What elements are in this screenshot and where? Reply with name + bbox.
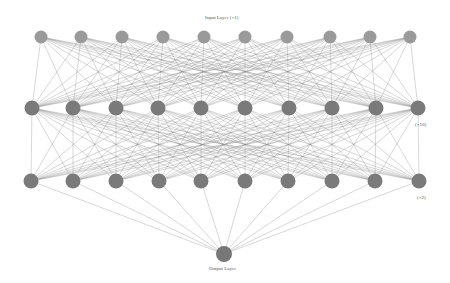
hidden1-node (325, 101, 340, 116)
hidden2-node (109, 174, 124, 189)
connection-edge (159, 181, 224, 254)
hidden2-node (24, 174, 39, 189)
hidden-layer-1-count-label: (×10) (415, 122, 426, 127)
hidden1-node (238, 101, 253, 116)
connection-edge (73, 181, 224, 254)
hidden1-node (25, 101, 40, 116)
hidden1-node (411, 101, 426, 116)
input-layer-label: Input Layer (×1) (205, 15, 238, 20)
input-node (239, 31, 252, 44)
connection-edge (245, 37, 287, 108)
connection-edge (204, 37, 245, 108)
connection-edge (418, 108, 419, 181)
input-node (364, 31, 377, 44)
hidden2-node (194, 174, 209, 189)
connection-edge (204, 37, 289, 108)
hidden-layer-2-count-label: (×2) (417, 195, 426, 200)
connection-edge (73, 37, 410, 108)
connection-edge (410, 37, 418, 108)
connection-edge (376, 108, 419, 181)
hidden1-node (369, 101, 384, 116)
connection-edge (289, 37, 330, 108)
connection-edge (201, 37, 410, 108)
connection-edges (31, 37, 419, 254)
output-node (216, 246, 232, 262)
input-node (116, 31, 129, 44)
connection-edge (31, 108, 32, 181)
connection-edge (32, 108, 159, 181)
connection-edge (201, 181, 224, 254)
hidden1-node (151, 101, 166, 116)
connection-edge (224, 181, 332, 254)
connection-edge (158, 37, 410, 108)
connection-edge (81, 37, 332, 108)
neural-network-diagram (0, 0, 450, 283)
connection-edge (289, 37, 370, 108)
connection-edge (224, 181, 419, 254)
hidden2-node (281, 174, 296, 189)
hidden2-node (368, 174, 383, 189)
input-node (75, 31, 88, 44)
connection-edge (288, 108, 418, 181)
input-node (198, 31, 211, 44)
connection-edge (224, 181, 375, 254)
connection-edge (32, 37, 245, 108)
hidden2-node (152, 174, 167, 189)
connection-edge (375, 108, 418, 181)
input-node (157, 31, 170, 44)
hidden2-node (238, 174, 253, 189)
output-layer-label: Output Layer (209, 266, 236, 271)
connection-edge (32, 37, 41, 108)
input-node (324, 31, 337, 44)
input-node (35, 31, 48, 44)
input-node (404, 31, 417, 44)
input-node (281, 31, 294, 44)
connection-edge (224, 181, 245, 254)
connection-edge (31, 181, 224, 254)
neuron-nodes (24, 31, 427, 263)
hidden1-node (282, 101, 297, 116)
connection-edge (116, 181, 224, 254)
connection-edge (370, 37, 418, 108)
hidden2-node (66, 174, 81, 189)
hidden2-node (412, 174, 427, 189)
connection-edge (32, 37, 410, 108)
hidden1-node (194, 101, 209, 116)
hidden1-node (109, 101, 124, 116)
connection-edge (32, 37, 81, 108)
hidden1-node (66, 101, 81, 116)
hidden2-node (325, 174, 340, 189)
